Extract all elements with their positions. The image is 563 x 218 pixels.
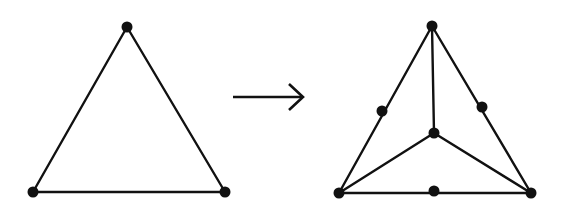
transformation-arrow-icon bbox=[233, 84, 303, 110]
node-bottom-left bbox=[334, 188, 345, 199]
node-bottom-left bbox=[28, 187, 39, 198]
edge bbox=[33, 27, 127, 192]
diagram-canvas bbox=[0, 0, 563, 218]
right-subdivided-graph bbox=[334, 21, 537, 199]
node-center bbox=[429, 128, 440, 139]
node-left-mid bbox=[377, 106, 388, 117]
node-bottom-right bbox=[526, 188, 537, 199]
node-top bbox=[122, 22, 133, 33]
node-bottom-mid bbox=[429, 186, 440, 197]
edge bbox=[339, 133, 434, 193]
node-right-mid bbox=[477, 102, 488, 113]
edge bbox=[432, 26, 434, 133]
node-top bbox=[427, 21, 438, 32]
left-triangle-graph bbox=[28, 22, 231, 198]
node-bottom-right bbox=[220, 187, 231, 198]
edge bbox=[127, 27, 225, 192]
edge bbox=[434, 133, 531, 193]
